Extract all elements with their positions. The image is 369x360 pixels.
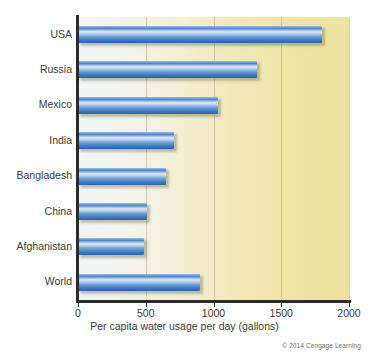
y-tick-label-russia: Russia [0, 63, 72, 75]
x-axis-title: Per capita water usage per day (gallons) [0, 320, 369, 332]
bar-india [78, 132, 174, 149]
bar-row [78, 159, 349, 194]
bar-row [78, 17, 349, 52]
bar-world [78, 274, 200, 291]
x-axis-tick-labels: 0500100015002000 [0, 303, 369, 319]
y-tick-label-mexico: Mexico [0, 98, 72, 110]
bar-row [78, 123, 349, 158]
bar-bangladesh [78, 168, 166, 185]
x-tick-label-1000: 1000 [202, 307, 225, 319]
gridline-2000 [349, 17, 350, 300]
x-tick-label-0: 0 [75, 307, 81, 319]
y-tick-label-china: China [0, 205, 72, 217]
x-tick-label-2000: 2000 [337, 307, 360, 319]
bar-row [78, 52, 349, 87]
bar-row [78, 194, 349, 229]
x-tick-label-1500: 1500 [270, 307, 293, 319]
bar-row [78, 265, 349, 300]
bar-row [78, 88, 349, 123]
bar-usa [78, 26, 322, 43]
y-axis-line [76, 15, 79, 302]
bar-russia [78, 61, 257, 78]
y-tick-label-afghanistan: Afghanistan [0, 240, 72, 252]
bar-chart-figure: USARussiaMexicoIndiaBangladeshChinaAfgha… [0, 0, 369, 360]
bar-row [78, 229, 349, 264]
plot-area [78, 17, 349, 300]
y-tick-label-usa: USA [0, 28, 72, 40]
bar-mexico [78, 97, 218, 114]
y-tick-label-world: World [0, 275, 72, 287]
bar-afghanistan [78, 238, 144, 255]
y-axis-tick-labels: USARussiaMexicoIndiaBangladeshChinaAfgha… [0, 17, 72, 300]
bar-china [78, 203, 147, 220]
x-tick-label-500: 500 [137, 307, 155, 319]
y-tick-label-bangladesh: Bangladesh [0, 169, 72, 181]
y-tick-label-india: India [0, 134, 72, 146]
copyright-credit: © 2014 Cengage Learning [282, 342, 361, 349]
